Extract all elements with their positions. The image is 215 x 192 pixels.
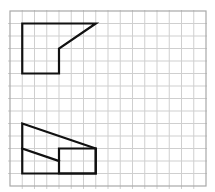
grid-diagram — [0, 0, 215, 192]
figure-inner-edge — [22, 149, 59, 162]
grid-lines — [8, 10, 207, 189]
